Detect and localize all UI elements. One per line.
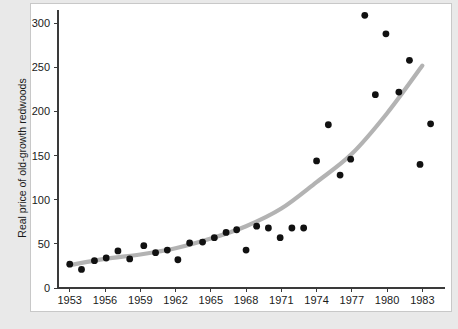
data-point [277,234,284,241]
x-tick-label: 1980 [375,294,399,306]
data-point [233,226,240,233]
x-tick-label: 1974 [304,294,328,306]
data-point [337,172,344,179]
x-tick-label: 1965 [199,294,223,306]
data-points-group [66,12,434,273]
trend-curve [70,66,423,265]
y-tick-label: 200 [32,105,50,117]
data-point [347,156,354,163]
trend-curve-group [70,66,423,265]
data-point [186,240,193,247]
data-point [126,255,133,262]
data-point [115,248,122,255]
scatter-chart: 050100150200250300 195319561959196219651… [0,0,458,329]
y-tick-label: 0 [44,282,50,294]
data-point [313,158,320,165]
x-tick-label: 1962 [163,294,187,306]
data-point [289,225,296,232]
data-point [427,120,434,127]
data-point [361,12,368,19]
data-point [395,89,402,96]
axes [58,10,445,288]
chart-root: 050100150200250300 195319561959196219651… [0,0,458,329]
y-tick-label: 250 [32,61,50,73]
data-point [243,247,250,254]
y-tick-label: 300 [32,17,50,29]
data-point [91,257,98,264]
x-tick-label: 1953 [58,294,82,306]
y-tick-label: 50 [38,238,50,250]
data-point [140,242,147,249]
y-tick-label: 100 [32,194,50,206]
x-axis-ticks: 1953195619591962196519681971197419771980… [58,288,435,306]
x-tick-label: 1968 [234,294,258,306]
data-point [78,266,85,273]
data-point [372,91,379,98]
x-tick-label: 1977 [340,294,364,306]
data-point [406,57,413,64]
x-tick-label: 1959 [128,294,152,306]
y-tick-label: 150 [32,150,50,162]
x-tick-label: 1956 [93,294,117,306]
data-point [152,249,159,256]
data-point [383,30,390,37]
data-point [265,225,272,232]
data-point [417,161,424,168]
data-point [164,247,171,254]
data-point [103,255,110,262]
data-point [325,121,332,128]
x-tick-label: 1983 [410,294,434,306]
y-axis-title: Real price of old-growth redwoods [16,78,28,237]
y-axis-ticks: 050100150200250300 [32,17,58,294]
data-point [300,225,307,232]
data-point [253,223,260,230]
data-point [174,256,181,263]
data-point [211,234,218,241]
data-point [199,239,206,246]
x-tick-label: 1971 [269,294,293,306]
data-point [223,229,230,236]
data-point [66,261,73,268]
